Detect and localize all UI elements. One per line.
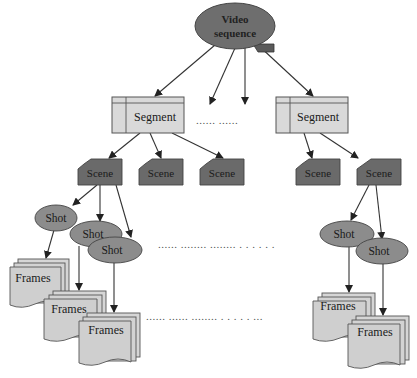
segment-node-1: Segment xyxy=(112,97,184,133)
frames-label: Frames xyxy=(15,271,51,285)
frames-node-3: Frames xyxy=(79,313,140,365)
scene-label: Scene xyxy=(366,167,392,179)
shot-node-1: Shot xyxy=(35,205,77,231)
scene-label: Scene xyxy=(305,167,331,179)
shot-label: Shot xyxy=(333,228,355,240)
video-hierarchy-diagram: Video sequence Segment Segment ...... ..… xyxy=(0,0,417,378)
scene-node-2: Scene xyxy=(139,159,183,185)
shot-level-ellipsis: ...... ........ ........ . . . . . . xyxy=(158,238,275,250)
scene-node-1: Scene xyxy=(78,159,122,185)
segment-level-ellipsis: ...... ...... xyxy=(196,114,238,126)
scene-node-3: Scene xyxy=(200,159,244,185)
shot-label: Shot xyxy=(45,212,67,224)
frames-level-ellipsis: ...... ...... ........ . . . . . ... xyxy=(146,310,263,322)
root-label-line1: Video xyxy=(221,13,249,25)
frames-label: Frames xyxy=(320,299,356,313)
scene-node-5: Scene xyxy=(357,159,401,185)
frames-node-5: Frames xyxy=(348,316,409,368)
frames-label: Frames xyxy=(51,302,87,316)
shot-label: Shot xyxy=(82,228,104,240)
segment-label: Segment xyxy=(134,110,177,124)
shot-node-5: Shot xyxy=(356,238,408,264)
frames-label: Frames xyxy=(88,323,124,337)
frames-label: Frames xyxy=(357,325,393,339)
scene-node-4: Scene xyxy=(296,159,340,185)
segment-label: Segment xyxy=(297,110,340,124)
scene-label: Scene xyxy=(148,167,174,179)
shot-label: Shot xyxy=(101,244,123,256)
shot-label: Shot xyxy=(368,245,390,257)
scene-label: Scene xyxy=(209,167,235,179)
segment-node-2: Segment xyxy=(276,97,348,133)
scene-label: Scene xyxy=(87,167,113,179)
root-label-line2: sequence xyxy=(214,27,256,39)
shot-node-3: Shot xyxy=(88,237,142,263)
root-node-video-sequence: Video sequence xyxy=(195,3,275,52)
